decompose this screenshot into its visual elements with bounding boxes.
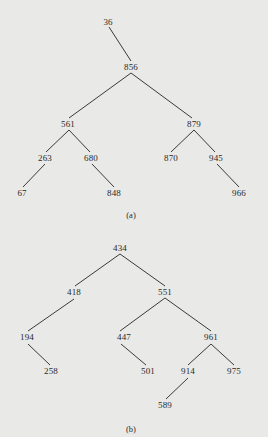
tree-node: 589 [158, 400, 172, 410]
tree-edge [109, 27, 131, 61]
tree-b-caption: (b) [126, 424, 136, 434]
tree-edge [171, 130, 194, 152]
tree-node: 67 [17, 188, 26, 198]
tree-edge [46, 130, 69, 152]
tree-edge [28, 299, 74, 331]
tree-edge [69, 73, 131, 118]
tree-edge [75, 254, 120, 286]
tree-edge [166, 378, 188, 399]
tree-edge [131, 73, 192, 118]
tree-node: 914 [181, 366, 195, 376]
tree-node: 418 [67, 287, 81, 297]
tree-node: 258 [44, 366, 58, 376]
tree-edge [217, 164, 239, 187]
tree-node: 879 [187, 119, 201, 129]
tree-edge [23, 164, 45, 187]
tree-node: 561 [61, 119, 75, 129]
tree-b-edges [28, 254, 234, 399]
tree-edge [188, 344, 211, 365]
tree-node: 434 [113, 243, 127, 253]
tree-node: 961 [204, 332, 218, 342]
tree-edge [92, 164, 114, 187]
tree-edge [120, 254, 165, 286]
tree-node: 975 [227, 366, 241, 376]
tree-node: 501 [141, 366, 155, 376]
tree-edge [165, 298, 211, 331]
tree-a-edges [23, 27, 239, 187]
tree-node: 194 [20, 332, 34, 342]
tree-node: 36 [103, 17, 112, 27]
tree-node: 945 [209, 153, 223, 163]
tree-node: 680 [84, 153, 98, 163]
tree-edge [28, 344, 50, 365]
tree-node: 263 [38, 153, 52, 163]
tree-node: 447 [117, 332, 131, 342]
tree-edge [194, 130, 215, 152]
figure-canvas: 36 856 561 879 263 680 870 945 67 848 96… [0, 0, 268, 437]
tree-a-caption: (a) [126, 210, 135, 220]
tree-edge [121, 344, 146, 365]
tree-edge [120, 298, 165, 331]
tree-node: 870 [164, 153, 178, 163]
tree-node: 966 [232, 188, 246, 198]
tree-edge [69, 130, 90, 152]
tree-edge [211, 344, 234, 365]
tree-node: 856 [124, 62, 138, 72]
tree-node: 848 [107, 188, 121, 198]
tree-node: 551 [158, 287, 172, 297]
